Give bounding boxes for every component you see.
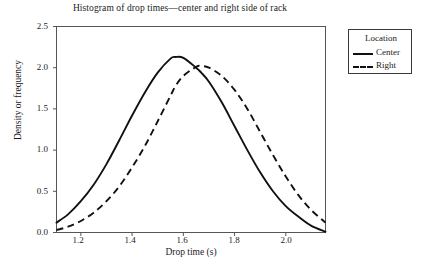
plot-frame [57,27,326,233]
legend-title: Location [349,33,413,43]
legend: Location Center Right [348,29,412,74]
legend-swatch-dashed-icon [353,66,373,68]
legend-swatch-solid-icon [353,53,373,55]
legend-entry-right: Right [353,60,413,73]
legend-label: Center [376,47,400,57]
legend-entry-center: Center [353,47,413,60]
y-tick-marks [53,27,57,233]
x-tick-marks [81,233,286,237]
chart-figure: Histogram of drop times—center and right… [0,0,427,274]
legend-label: Right [376,60,396,70]
series-line-center [57,57,326,232]
